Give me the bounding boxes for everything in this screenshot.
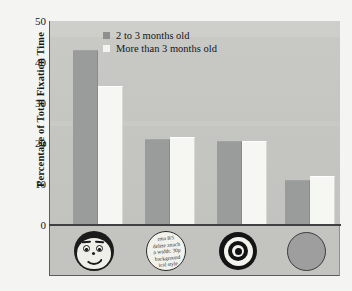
bar-newsprint-series-1 [145, 139, 170, 225]
category-icon-bullseye [210, 228, 266, 274]
bar-newsprint-series-2 [170, 137, 195, 225]
y-tick-label: 0 [24, 219, 46, 231]
newsprint-text: rma 8/5delete attachn width: 30pbackgrou… [146, 233, 186, 270]
bar-bullseye-series-2 [242, 141, 267, 225]
bar-group [217, 21, 267, 225]
x-axis-icon-band: rma 8/5delete attachn width: 30pbackgrou… [49, 226, 340, 276]
y-tick-label: 30 [24, 97, 46, 109]
newsprint-circle-icon: rma 8/5delete attachn width: 30pbackgrou… [146, 231, 186, 271]
bar-plain-disc-series-2 [310, 176, 335, 225]
bar-face-series-1 [73, 50, 98, 225]
bar-chart-figure: Percentage of Total Fixation Time 504030… [0, 0, 352, 291]
bullseye-center [235, 248, 242, 255]
plain-disc-icon [287, 232, 326, 271]
bar-bullseye-series-1 [217, 141, 242, 225]
y-tick-label: 10 [24, 178, 46, 190]
y-tick-label: 20 [24, 137, 46, 149]
category-icon-newsprint: rma 8/5delete attachn width: 30pbackgrou… [138, 228, 194, 274]
face-pupil-left [85, 248, 88, 251]
bar-group [285, 21, 335, 225]
face-pupil-right [98, 248, 101, 251]
legend-label: More than 3 months old [116, 42, 217, 55]
y-axis-tick-labels: 50403020100 [22, 0, 46, 291]
bar-plain-disc-series-1 [285, 180, 310, 225]
category-icon-face [66, 228, 122, 274]
legend-label: 2 to 3 months old [116, 29, 190, 42]
y-tick-label: 50 [24, 15, 46, 27]
chart-legend: 2 to 3 months oldMore than 3 months old [103, 29, 217, 55]
face-icon [74, 231, 114, 271]
legend-entry: 2 to 3 months old [103, 29, 217, 42]
y-tick-label: 40 [24, 56, 46, 68]
legend-entry: More than 3 months old [103, 42, 217, 55]
legend-swatch [103, 32, 110, 39]
category-icon-plain-disc [278, 228, 334, 274]
legend-swatch [103, 45, 110, 52]
bullseye-icon [219, 232, 257, 270]
bar-face-series-2 [98, 86, 123, 225]
